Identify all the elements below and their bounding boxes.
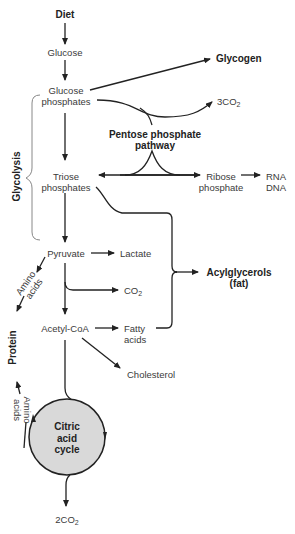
triose-line1: Triose xyxy=(41,171,90,182)
node-acylglycerols: Acylglycerols (fat) xyxy=(206,267,271,289)
glucose-phosphates-line2: phosphates xyxy=(41,96,90,107)
3co2-text: 3CO xyxy=(217,96,237,107)
fatty-line1: Fatty xyxy=(124,323,146,334)
pentose-peak xyxy=(125,151,180,175)
node-fatty-acids: Fatty acids xyxy=(124,323,146,345)
node-acetyl-coa: Acetyl-CoA xyxy=(41,323,89,334)
arrow-glycogen xyxy=(90,59,210,90)
node-triose-phosphates: Triose phosphates xyxy=(41,171,90,193)
acylglycerols-line1: Acylglycerols xyxy=(206,267,271,278)
arrow-amino-protein-bottom xyxy=(17,382,20,394)
node-cholesterol: Cholesterol xyxy=(127,369,175,380)
dna-label: DNA xyxy=(266,182,286,193)
label-glycolysis: Glycolysis xyxy=(11,151,22,201)
pentose-line1: Pentose phosphate xyxy=(109,129,201,140)
citric-line3: cycle xyxy=(54,444,80,456)
triose-fat-line xyxy=(96,187,177,272)
3co2-sub: 2 xyxy=(237,101,241,108)
arrow-co2 xyxy=(65,282,118,290)
arrow-pyruvate-amino xyxy=(37,257,45,272)
triose-line2: phosphates xyxy=(41,182,90,193)
amino-bottom-line1: Amino xyxy=(22,397,32,424)
node-diet: Diet xyxy=(56,9,75,20)
node-3co2: 3CO2 xyxy=(217,96,240,110)
fatty-fat-line xyxy=(156,272,177,328)
citric-line2: acid xyxy=(54,433,80,445)
node-lactate: Lactate xyxy=(120,248,151,259)
co2-sub: 2 xyxy=(138,290,142,297)
ribose-line2: phosphate xyxy=(199,182,243,193)
pentose-branch-top xyxy=(140,108,152,125)
arrow-3co2 xyxy=(97,100,212,117)
glucose-phosphates-line1: Glucose xyxy=(41,85,90,96)
glycolysis-bracket xyxy=(26,95,40,240)
citric-line1: Citric xyxy=(54,421,80,433)
node-pentose-phosphate-pathway: Pentose phosphate pathway xyxy=(109,129,201,151)
node-glycogen: Glycogen xyxy=(216,53,262,64)
node-rna-dna: RNA DNA xyxy=(266,171,286,193)
rna-label: RNA xyxy=(266,171,286,182)
amino-bottom-line2: acids xyxy=(12,397,22,424)
line-citric-amino xyxy=(24,422,26,448)
2co2-text: 2CO xyxy=(55,514,75,525)
node-ribose-phosphate: Ribose phosphate xyxy=(199,171,243,193)
node-citric-acid-cycle: Citric acid cycle xyxy=(54,421,80,456)
node-glucose: Glucose xyxy=(48,47,83,58)
ribose-line1: Ribose xyxy=(199,171,243,182)
arrow-amino-protein xyxy=(17,296,24,311)
node-protein: Protein xyxy=(7,330,18,364)
acylglycerols-line2: (fat) xyxy=(206,278,271,289)
fatty-line2: acids xyxy=(124,334,146,345)
line-acetyl-citric xyxy=(65,340,72,400)
2co2-sub: 2 xyxy=(75,519,79,526)
node-glucose-phosphates: Glucose phosphates xyxy=(41,85,90,107)
arrow-2co2 xyxy=(66,475,70,506)
node-co2: CO2 xyxy=(124,285,142,299)
arrow-cholesterol xyxy=(82,338,120,368)
node-pyruvate: Pyruvate xyxy=(47,248,85,259)
node-2co2: 2CO2 xyxy=(55,514,78,528)
co2-text: CO xyxy=(124,285,138,296)
pentose-line2: pathway xyxy=(109,140,201,151)
label-amino-acids-bottom: Amino acids xyxy=(12,397,32,424)
